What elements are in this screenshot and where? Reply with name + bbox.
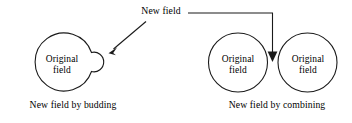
budding-original-field-label-line1: Original: [36, 54, 88, 65]
budding-arrow-head: [109, 47, 118, 55]
diagram-figure: New field Original field New field by bu…: [0, 0, 352, 123]
combining-arrow-head: [268, 52, 278, 63]
combining-right-field-label: Original field: [282, 54, 334, 75]
combining-right-field-label-line1: Original: [282, 54, 334, 65]
combining-caption: New field by combining: [208, 100, 346, 110]
combining-left-field-label: Original field: [212, 54, 264, 75]
budding-original-field-label: Original field: [36, 54, 88, 75]
budding-callout-arrow: [109, 22, 147, 56]
combining-left-field-label-line1: Original: [212, 54, 264, 65]
budding-arrow-line: [114, 22, 147, 50]
new-field-callout-label: New field: [133, 6, 189, 16]
budding-original-field-label-line2: field: [36, 65, 88, 76]
combining-right-field-label-line2: field: [282, 65, 334, 76]
budding-caption: New field by budding: [14, 100, 132, 110]
combining-left-field-label-line2: field: [212, 65, 264, 76]
combining-arrow-line: [188, 13, 273, 52]
